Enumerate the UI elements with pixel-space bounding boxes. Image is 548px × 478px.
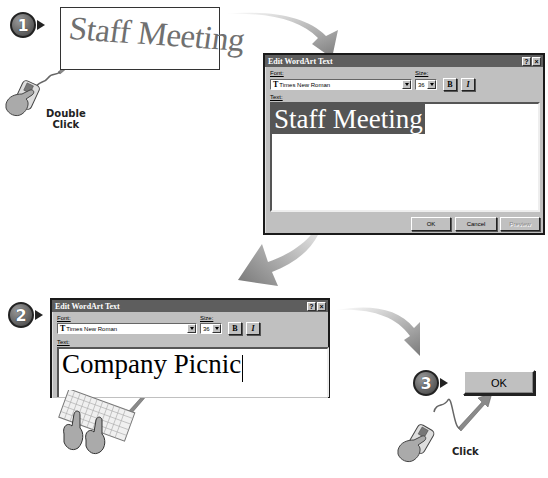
step-pointer-icon <box>440 378 448 388</box>
help-button[interactable]: ? <box>522 57 531 66</box>
edit-wordart-dialog-2: Edit WordArt Text ? × Font: T Times New … <box>50 298 330 398</box>
chevron-down-icon[interactable] <box>187 324 196 333</box>
text-caret <box>242 355 243 382</box>
step-3-badge: 3 <box>413 370 448 396</box>
double-click-label: Double Click <box>46 108 86 130</box>
italic-button[interactable]: I <box>246 322 260 335</box>
curved-arrow-icon-3 <box>336 307 420 356</box>
step-1-badge: 1 <box>10 12 45 38</box>
step-number: 1 <box>10 12 36 38</box>
size-value: 36 <box>416 82 427 88</box>
font-label: Font: <box>270 70 284 76</box>
typed-text: Company Picnic <box>59 349 241 379</box>
edit-wordart-dialog-1: Edit WordArt Text ? × Font: T Times New … <box>263 53 545 235</box>
size-label: Size: <box>415 70 428 76</box>
wordart-text: Staff Meeting <box>67 10 247 59</box>
preview-button[interactable]: Preview <box>500 217 540 231</box>
mouse-hand-icon <box>396 422 440 466</box>
step-number: 2 <box>8 302 34 328</box>
text-input[interactable]: Staff Meeting <box>270 102 540 212</box>
step-number: 3 <box>413 370 439 396</box>
bold-button[interactable]: B <box>443 78 457 91</box>
dialog-titlebar[interactable]: Edit WordArt Text ? × <box>265 55 543 67</box>
step-2-badge: 2 <box>8 302 43 328</box>
help-button[interactable]: ? <box>307 302 316 311</box>
size-dropdown[interactable]: 36 <box>415 79 437 90</box>
cancel-button[interactable]: Cancel <box>455 217 497 231</box>
dialog-title: Edit WordArt Text <box>55 302 120 311</box>
bold-button[interactable]: B <box>228 322 242 335</box>
font-dropdown[interactable]: T Times New Roman <box>57 323 197 334</box>
size-value: 36 <box>201 326 212 332</box>
font-value: Times New Roman <box>279 82 402 88</box>
close-button[interactable]: × <box>317 302 326 311</box>
dialog-titlebar[interactable]: Edit WordArt Text ? × <box>52 300 328 312</box>
font-dropdown[interactable]: T Times New Roman <box>270 79 412 90</box>
text-label: Text: <box>270 94 283 100</box>
size-dropdown[interactable]: 36 <box>200 323 222 334</box>
truetype-icon: T <box>273 80 278 89</box>
size-label: Size: <box>200 315 213 321</box>
font-label: Font: <box>57 315 71 321</box>
chevron-down-icon[interactable] <box>212 324 221 333</box>
mouse-hand-icon <box>4 80 48 120</box>
ok-button-large[interactable]: OK <box>463 370 535 395</box>
text-label: Text: <box>57 339 70 345</box>
ok-button[interactable]: OK <box>411 217 451 231</box>
dialog-title: Edit WordArt Text <box>268 57 333 66</box>
wordart-object[interactable]: Staff Meeting <box>60 7 220 70</box>
font-value: Times New Roman <box>66 326 187 332</box>
step-pointer-icon <box>35 310 43 320</box>
italic-button[interactable]: I <box>461 78 475 91</box>
chevron-down-icon[interactable] <box>402 80 411 89</box>
truetype-icon: T <box>60 324 65 333</box>
pointer-arrow-icon-3 <box>458 393 492 431</box>
chevron-down-icon[interactable] <box>427 80 436 89</box>
step-pointer-icon <box>37 20 45 30</box>
close-button[interactable]: × <box>532 57 541 66</box>
click-label: Click <box>452 446 479 457</box>
selected-text: Staff Meeting <box>272 104 425 134</box>
keyboard-typing-icon <box>56 390 136 456</box>
